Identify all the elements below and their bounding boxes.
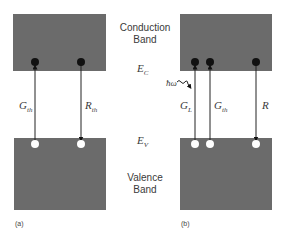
ec-label: EC (137, 62, 148, 77)
electron-dot (252, 58, 260, 66)
photon-label: ħω (166, 78, 177, 88)
conduction-band-label: Conduction Band (112, 22, 178, 46)
electron-dot (31, 58, 39, 66)
electron-dot (191, 58, 199, 66)
hole-dot (191, 140, 199, 148)
hole-dot (31, 140, 39, 148)
gth-label-b: Gth (214, 99, 227, 114)
panel-b-caption: (b) (181, 220, 190, 227)
electron-dot (77, 58, 85, 66)
gl-label-b: GL (180, 99, 192, 114)
hole-dot (206, 140, 214, 148)
rth-label-a: Rth (85, 99, 97, 114)
panel-a-caption: (a) (15, 220, 24, 227)
electron-dot (206, 58, 214, 66)
gth-label-a: Gth (19, 99, 32, 114)
r-label-b: R (262, 99, 269, 111)
valence-band-label: Valence Band (112, 172, 178, 196)
ev-label: EV (137, 134, 148, 149)
photon-wave-icon (177, 81, 190, 88)
hole-dot (77, 140, 85, 148)
hole-dot (252, 140, 260, 148)
